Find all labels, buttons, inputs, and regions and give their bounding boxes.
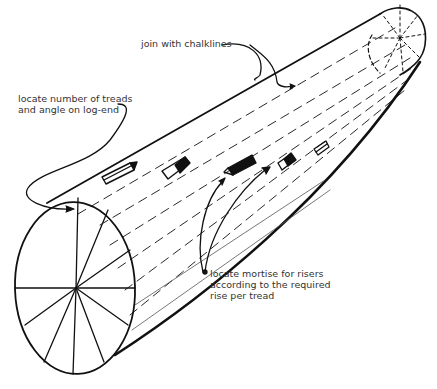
mortise-label-line-2: according to the required	[210, 279, 331, 290]
mortise-label: locate mortise for risers according to t…	[210, 268, 331, 301]
log-diagram	[0, 0, 437, 389]
mortise-label-line-3: rise per tread	[210, 290, 331, 301]
mortise-1	[102, 162, 137, 184]
mortise-label-line-1: locate mortise for risers	[210, 268, 331, 279]
mortise-5	[314, 141, 329, 155]
treads-label-line-2: and angle on log-end	[18, 104, 114, 115]
treads-leader	[26, 104, 126, 212]
log-cylinder-icon	[47, 14, 420, 355]
mortise-2	[162, 157, 190, 179]
chalklines-label: join with chalklines	[141, 38, 232, 49]
mortise-leader	[200, 167, 270, 274]
treads-label-line-1: locate number of treads	[18, 93, 114, 104]
mortise-3	[224, 155, 256, 175]
treads-label: locate number of treads and angle on log…	[18, 93, 114, 115]
log-end-divided-circle	[12, 198, 138, 376]
mortise-4	[278, 153, 296, 170]
